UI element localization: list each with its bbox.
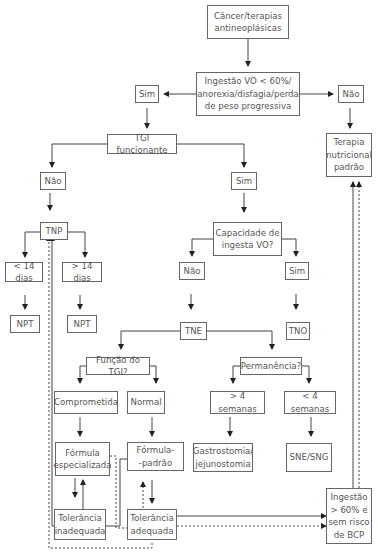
node-oral-no: Não [179,262,205,280]
node-intake-question: Ingestão VO < 60%/ anorexia/disfagia/per… [196,72,300,116]
node-inadequate-tolerance: Tolerância inadequada [54,509,106,540]
node-gastrostomy: Gastrostomia/ jejunostomia [193,443,253,472]
node-tnp: TNP [40,222,68,240]
node-tno: TNO [286,322,310,340]
node-oral-capacity: Capacidade de ingesta VO? [213,222,282,256]
node-no-top: Não [338,85,364,103]
node-less-14-days: < 14 dias [5,262,43,282]
node-yes-top: Sim [135,85,159,103]
node-specialized-formula: Fórmula especializada [55,442,110,476]
node-sne-sng: SNE/SNG [286,443,332,472]
node-intake-ok: Ingestão > 60% e sem risco de BCP [326,488,372,544]
node-start: Câncer/terapias antineoplásicas [207,5,289,39]
node-less-4-weeks: < 4 semanas [284,391,336,414]
node-duration: Permanência? [240,357,302,375]
node-more-14-days: > 14 dias [62,262,102,282]
node-normal: Normal [127,391,165,414]
node-oral-yes: Sim [285,262,309,280]
node-adequate-tolerance: Tolerância adequada [127,509,177,540]
node-standard-formula: Fórmula- -padrão [127,442,184,471]
node-tne: TNE [180,322,207,340]
node-npt-left: NPT [10,315,40,333]
node-tgi-function: Função do TGI? [86,357,150,375]
node-tgi-no: Não [40,172,66,190]
node-standard-therapy: Terapia nutricional padrão [326,133,372,177]
node-compromised: Comprometida [54,391,118,414]
node-tgi-functioning: TGI funcionante [107,134,177,154]
node-more-4-weeks: > 4 semanas [210,391,265,414]
node-tgi-yes: Sim [231,172,257,190]
node-npt-right: NPT [67,315,97,333]
